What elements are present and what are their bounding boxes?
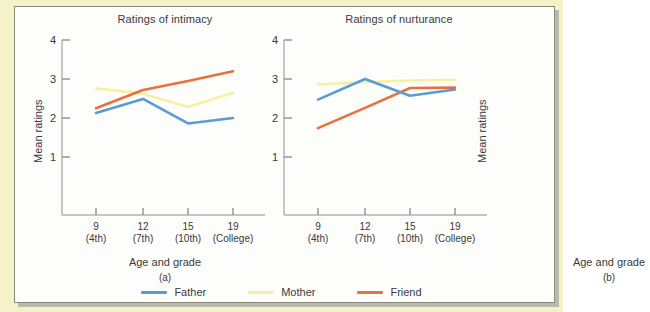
- x-tick-age-b-1: 12: [355, 221, 376, 233]
- panel-letter-b: (b): [509, 272, 650, 283]
- x-tick-label-a-0: 9 (4th): [86, 221, 107, 245]
- series-line-b-mother: [318, 80, 455, 85]
- x-tick-label-a-1: 12 (7th): [133, 221, 154, 245]
- x-tick-grade-a-2: (10th): [175, 233, 201, 245]
- x-tick-age-b-0: 9: [308, 221, 329, 233]
- x-tick-grade-b-0: (4th): [308, 233, 329, 245]
- x-tick-label-b-3: 19 (College): [435, 221, 476, 245]
- x-tick-label-b-1: 12 (7th): [355, 221, 376, 245]
- x-tick-age-b-2: 15: [397, 221, 423, 233]
- x-tick-label-b-2: 15 (10th): [397, 221, 423, 245]
- x-tick-grade-b-1: (7th): [355, 233, 376, 245]
- x-tick-age-a-0: 9: [86, 221, 107, 233]
- series-line-a-father: [96, 99, 233, 124]
- x-tick-grade-a-1: (7th): [133, 233, 154, 245]
- x-tick-grade-b-3: (College): [435, 233, 476, 245]
- x-tick-grade-b-2: (10th): [397, 233, 423, 245]
- series-line-a-mother: [96, 88, 233, 107]
- line-swatch-icon-mother: [248, 291, 274, 294]
- x-tick-age-a-1: 12: [133, 221, 154, 233]
- legend-item-mother: Mother: [248, 286, 315, 298]
- x-tick-grade-a-0: (4th): [86, 233, 107, 245]
- legend-label-father: Father: [174, 286, 206, 298]
- x-tick-label-b-0: 9 (4th): [308, 221, 329, 245]
- legend-label-mother: Mother: [281, 286, 315, 298]
- x-tick-age-b-3: 19: [435, 221, 476, 233]
- legend-label-friend: Friend: [390, 286, 421, 298]
- chart-legend: Father Mother Friend: [0, 286, 563, 298]
- x-axis-title-b: Age and grade: [509, 256, 650, 268]
- line-swatch-icon-friend: [357, 291, 383, 294]
- legend-item-father: Father: [141, 286, 206, 298]
- x-tick-label-a-2: 15 (10th): [175, 221, 201, 245]
- line-swatch-icon-father: [141, 291, 167, 294]
- x-tick-age-a-2: 15: [175, 221, 201, 233]
- legend-item-friend: Friend: [357, 286, 421, 298]
